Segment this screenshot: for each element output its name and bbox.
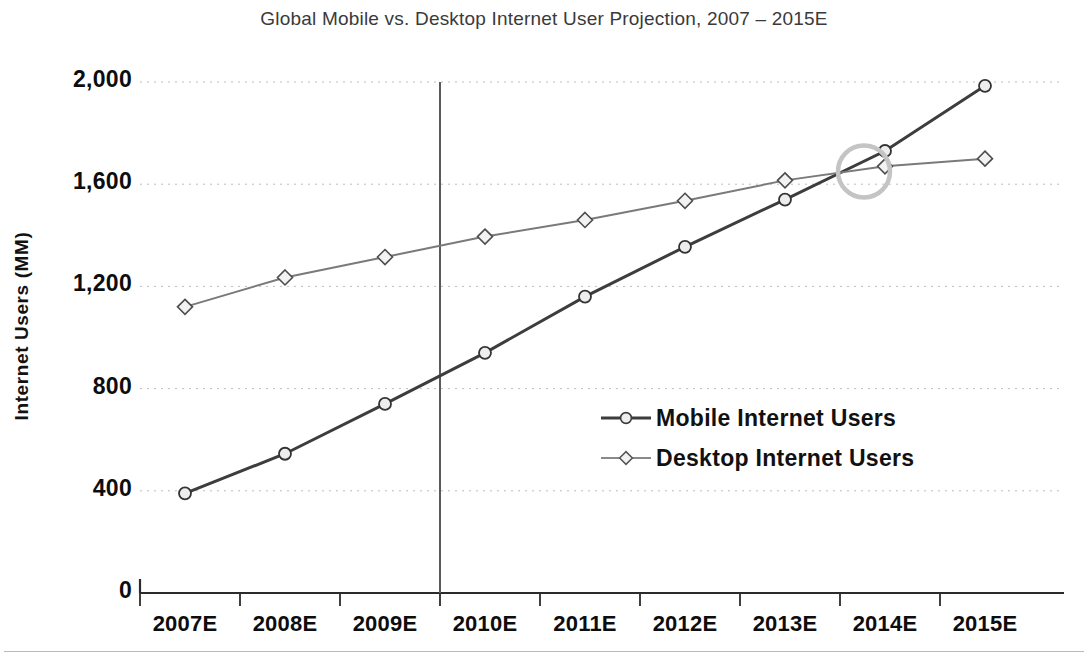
data-point-marker [479,347,491,359]
data-point-marker [378,250,393,265]
data-point-marker [778,173,793,188]
data-point-marker [979,80,991,92]
data-point-marker [679,241,691,253]
data-point-marker [278,270,293,285]
data-point-marker [779,194,791,206]
legend-swatch-desktop [600,448,652,468]
axis-lines [140,579,1064,593]
x-tick-label: 2015E [925,611,1045,637]
chart-figure: Global Mobile vs. Desktop Internet User … [0,0,1088,659]
x-axis-tick-marks [140,593,940,606]
legend-item-desktop: Desktop Internet Users [600,438,980,478]
series-line [185,159,985,307]
data-point-marker [178,299,193,314]
data-point-marker [678,193,693,208]
plot-area [0,0,1088,659]
legend-swatch-mobile [600,408,652,428]
data-point-marker [579,291,591,303]
x-axis-tick-labels: 2007E2008E2009E2010E2011E2012E2013E2014E… [0,611,1088,645]
data-point-marker [578,212,593,227]
chart-legend: Mobile Internet Users Desktop Internet U… [600,398,980,478]
legend-label-mobile: Mobile Internet Users [652,405,896,432]
data-point-marker [978,151,993,166]
bottom-divider-rule [4,651,1084,652]
legend-item-mobile: Mobile Internet Users [600,398,980,438]
data-point-marker [179,487,191,499]
data-point-marker [478,229,493,244]
legend-label-desktop: Desktop Internet Users [652,445,914,472]
data-point-marker [279,448,291,460]
data-point-marker [379,398,391,410]
